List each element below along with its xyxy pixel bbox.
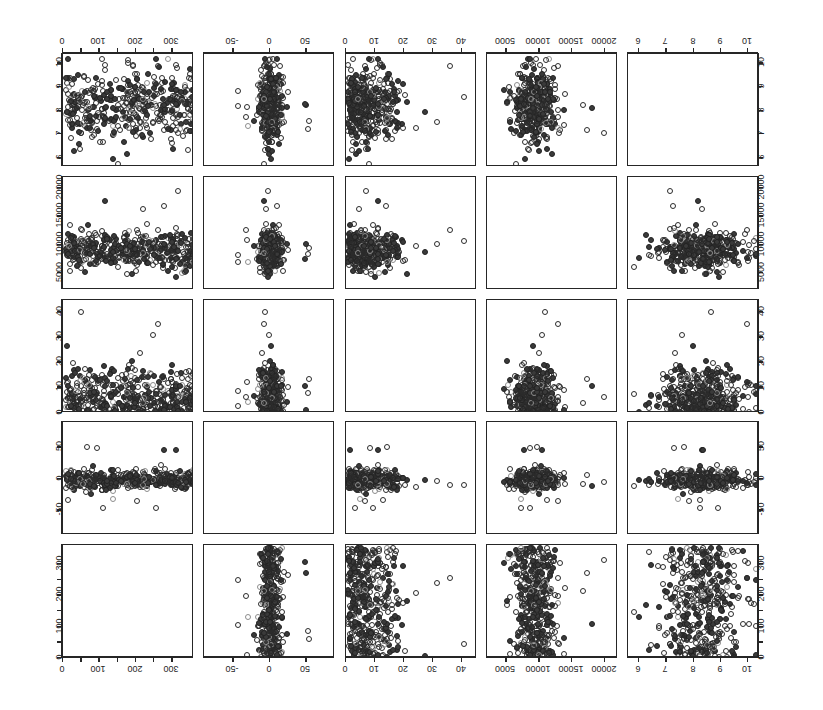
data-point [261,198,267,204]
data-point [270,553,276,559]
data-point [561,107,567,113]
data-point [693,227,699,233]
axis-tick-label: 300 [164,664,179,674]
data-point [254,112,260,118]
data-point [552,629,558,635]
axis-gc: 5000100001500020000 [486,31,617,53]
data-point [660,376,666,382]
data-point [91,406,97,412]
data-point [694,591,700,597]
data-point [356,206,362,212]
data-point [664,406,670,412]
data-point [124,151,130,157]
axis-tick [374,48,375,53]
data-point [261,264,267,270]
data-point [384,636,390,642]
axis-tick-label: 8 [756,107,766,112]
data-point [123,110,129,116]
data-point [104,478,110,484]
data-point [245,614,251,620]
data-point [267,236,273,242]
axis-tick-label: 0 [342,664,347,674]
data-point [145,374,151,380]
axis-tick-label: 10000 [54,231,64,256]
data-point [589,621,595,627]
data-point [383,564,389,570]
data-point [125,485,131,491]
axis-gal_lat: -50050 [203,657,334,679]
data-point [507,377,513,383]
data-point [306,245,312,251]
data-point [387,88,393,94]
data-point [140,206,146,212]
axis-tick-label: 6 [635,36,640,46]
axis-tick [747,48,748,53]
data-point [461,238,467,244]
axis-tick-label: 40 [456,36,466,46]
data-point [305,390,311,396]
data-point [153,505,159,511]
diagonal-label-box [345,299,476,412]
scatter-panel [203,53,334,166]
data-point [555,593,561,599]
data-points [628,545,757,656]
splom-panel-diameter-vs-gc [345,176,476,289]
data-point [76,257,82,263]
data-point [723,262,729,268]
axis-tick [98,657,99,662]
scatter-panel [486,544,617,657]
data-point [275,639,281,645]
data-point [347,612,353,618]
data-point [146,239,152,245]
data-point [235,259,241,265]
data-point [719,631,725,637]
diagonal-label-box [627,53,758,166]
data-point [714,572,720,578]
axis-tick-label: 15000 [558,664,583,674]
data-point [110,496,116,502]
axis-tick-label: 0 [54,409,64,414]
data-point [735,548,741,554]
data-point [656,255,662,261]
data-point [697,620,703,626]
scatter-panel [627,176,758,289]
axis-tick-label: 0 [54,654,64,659]
axis-gal_long: 0100200300 [62,31,193,53]
data-point [92,230,98,236]
data-point [110,105,116,111]
data-point [366,264,372,270]
data-point [504,602,510,608]
data-point [518,505,524,511]
axis-tick-label: 15000 [54,203,64,228]
axis-tick-label: 6 [756,154,766,159]
axis-tick [604,48,605,53]
data-point [90,463,96,469]
data-point [400,239,406,245]
data-point [544,497,550,503]
data-point [356,148,362,154]
splom-panel-gal_long-vs-gc: 5000100001500020000 [62,176,193,289]
data-point [631,483,637,489]
splom-panel-gal_lat-vs-age: -50050 [203,53,334,166]
axis-tick [665,48,666,53]
data-point [714,555,720,561]
data-point [539,71,545,77]
data-point [144,221,150,227]
data-points [487,545,616,656]
data-point [561,122,567,128]
axis-tick-label: 7 [756,131,766,136]
data-point [103,487,109,493]
axis-tick [638,657,639,662]
data-point [375,198,381,204]
data-point [285,89,291,95]
data-point [115,391,121,397]
axis-diameter: 010203040 [345,657,476,679]
data-points [204,545,333,656]
data-point [262,147,268,153]
data-points [346,177,475,288]
data-point [551,65,557,71]
data-point [740,406,746,411]
data-point [103,104,109,110]
data-point [725,406,731,411]
data-point [534,444,540,450]
